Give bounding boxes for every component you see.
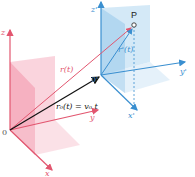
moving-z-label: z' [90, 5, 97, 14]
fixed-y-label: y [89, 113, 95, 122]
moving-x-label: x' [128, 111, 135, 120]
point-p-label: P [131, 10, 137, 20]
vector-r-label: r(t) [60, 65, 73, 74]
point-p-marker [132, 23, 136, 27]
fixed-x-label: x [45, 169, 50, 177]
relative-motion-diagram: z y x 0 z' y' x' 0' P r(t) r'(t) r₀(t) =… [0, 0, 195, 177]
vector-r0-label: r₀(t) = v₀ t [56, 102, 99, 111]
fixed-z-label: z [0, 28, 6, 37]
vector-r-prime-label: r'(t) [118, 45, 133, 54]
moving-y-label: y' [179, 67, 187, 76]
diagram-svg: z y x 0 z' y' x' 0' P r(t) r'(t) r₀(t) =… [0, 0, 195, 177]
fixed-origin-label: 0 [2, 128, 7, 137]
moving-origin-label: 0' [91, 75, 98, 84]
